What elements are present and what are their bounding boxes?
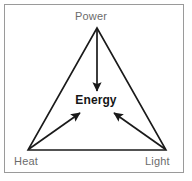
- node-label-power: Power: [75, 10, 107, 22]
- node-label-heat: Heat: [14, 155, 38, 167]
- energy-diagram-figure: Power Heat Light Energy: [0, 0, 192, 181]
- center-label-energy: Energy: [65, 94, 127, 107]
- light-to-energy-arrow: [114, 113, 165, 149]
- node-label-light: Light: [145, 155, 170, 167]
- heat-to-energy-arrow: [29, 113, 80, 149]
- diagram-graphics: [0, 0, 192, 181]
